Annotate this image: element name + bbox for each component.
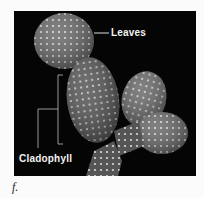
leaves-label: Leaves <box>111 27 146 38</box>
figure-caption: f. <box>12 180 18 195</box>
cactus-photo: Leaves Cladophyll <box>14 11 196 176</box>
cactus-illustration <box>14 11 196 176</box>
cladophyll-label: Cladophyll <box>19 153 72 164</box>
cladophyll-bracket <box>58 75 63 144</box>
cladophyll-leader-line <box>38 109 58 148</box>
